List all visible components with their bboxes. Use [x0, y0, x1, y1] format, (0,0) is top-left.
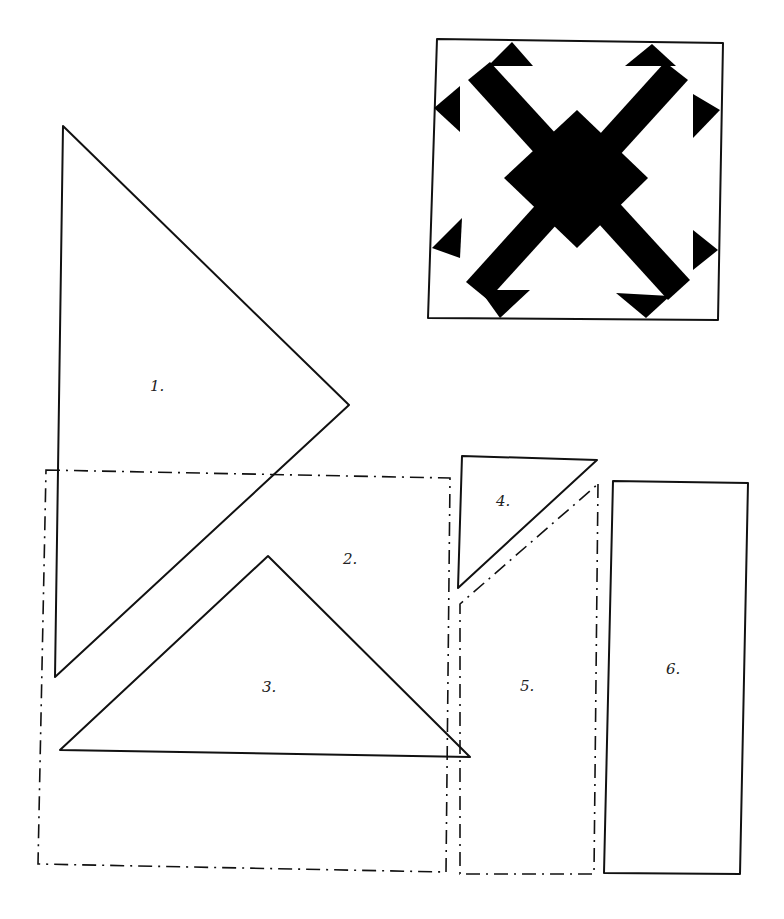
- quilt-block-preview: [428, 39, 723, 320]
- pattern-diagram: 1. 2. 3. 4. 5. 6.: [0, 0, 784, 919]
- piece-2-label: 2.: [342, 550, 357, 568]
- piece-4-label: 4.: [495, 492, 510, 510]
- piece-3: 3.: [60, 556, 470, 757]
- piece-6-label: 6.: [666, 660, 680, 678]
- piece-5: 5.: [460, 484, 598, 874]
- arrowhead-bl-b: [480, 290, 530, 318]
- piece-1-label: 1.: [150, 377, 164, 395]
- arrowhead-tl-a: [488, 42, 533, 66]
- arrowhead-tr-b: [693, 94, 720, 138]
- arrowhead-tl-b: [434, 86, 460, 132]
- piece-2: 2.: [38, 470, 450, 872]
- arrowhead-br-b: [616, 293, 670, 318]
- piece-5-label: 5.: [520, 677, 534, 695]
- arrowhead-bl-a: [432, 218, 462, 258]
- piece-3-label: 3.: [262, 678, 276, 696]
- piece-4: 4.: [458, 456, 597, 588]
- arrowhead-br-a: [693, 230, 718, 270]
- arrowhead-tr-a: [625, 44, 676, 66]
- piece-6: 6.: [604, 481, 748, 874]
- piece-1: 1.: [55, 126, 349, 677]
